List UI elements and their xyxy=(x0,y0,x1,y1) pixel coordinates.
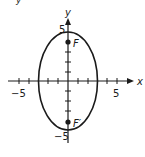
graph-canvas: y x −5 5 xyxy=(0,0,145,157)
ellipse-figure: y x −5 5 xyxy=(0,0,145,157)
cropped-label-fragment: y xyxy=(15,0,22,5)
focus-label-F: F xyxy=(73,38,79,49)
focus-label-F-prime: F′ xyxy=(73,118,82,129)
focus-point-icon xyxy=(65,39,70,44)
focus-point-icon xyxy=(65,119,70,124)
x-axis-arrow-icon xyxy=(127,78,134,84)
x-tick-label-5: 5 xyxy=(113,88,119,99)
x-axis: x −5 5 xyxy=(8,76,143,99)
y-tick-label-neg5: −5 xyxy=(54,131,69,142)
x-axis-label: x xyxy=(136,76,143,87)
y-axis-arrow-icon xyxy=(65,18,71,25)
y-axis-label: y xyxy=(64,7,72,18)
x-tick-label-neg5: −5 xyxy=(11,88,26,99)
